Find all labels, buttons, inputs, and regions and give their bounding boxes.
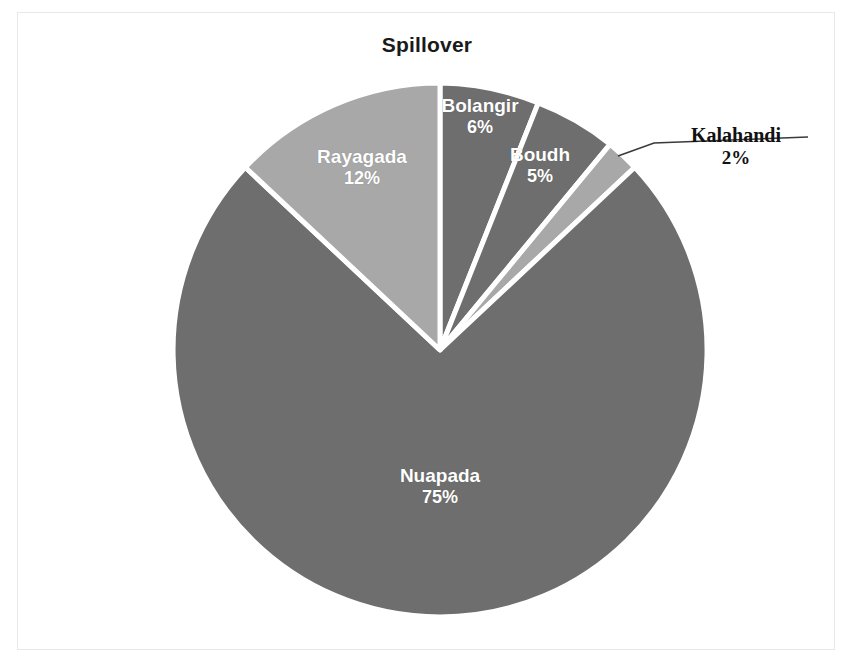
pie-label-kalahandi-name: Kalahandi	[691, 124, 781, 146]
pie-label-kalahandi-value: 2%	[656, 147, 816, 170]
chart-frame: Spillover Bolangir 6% Boudh 5% Kalahandi…	[17, 12, 835, 650]
pie-chart	[18, 13, 836, 651]
pie-label-kalahandi: Kalahandi 2%	[656, 123, 816, 170]
